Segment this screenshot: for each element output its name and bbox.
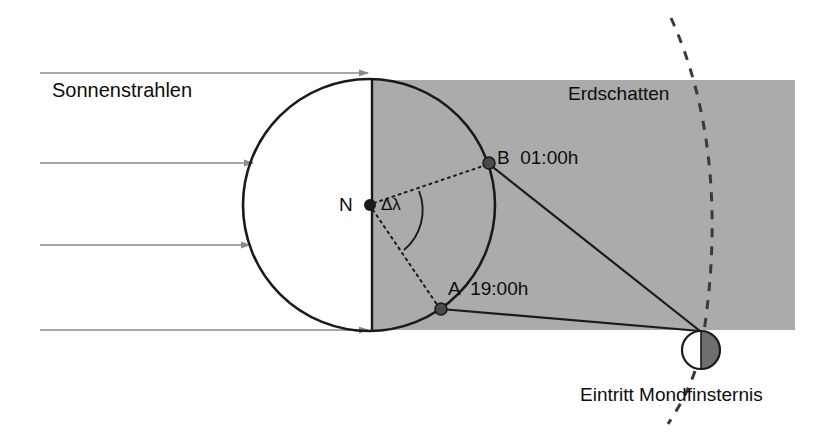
point-b-marker bbox=[483, 157, 495, 169]
point-n-marker bbox=[364, 199, 376, 211]
moon-eclipse-label: Eintritt Mondfinsternis bbox=[580, 385, 763, 404]
point-a-marker bbox=[435, 303, 447, 315]
earth-shadow-label: Erdschatten bbox=[568, 84, 669, 103]
moon-group bbox=[682, 331, 720, 369]
diagram-canvas bbox=[0, 0, 832, 441]
point-b-label: B 01:00h bbox=[497, 148, 578, 167]
earth-center-label: N bbox=[339, 195, 353, 214]
eclipse-diagram: Sonnenstrahlen Erdschatten N Δλ B 01:00h… bbox=[0, 0, 832, 441]
delta-lambda-label: Δλ bbox=[381, 196, 401, 213]
sun-rays-label: Sonnenstrahlen bbox=[52, 80, 192, 100]
point-a-label: A 19:00h bbox=[448, 279, 528, 298]
moon-dark-half bbox=[701, 331, 720, 369]
moon-lit-half bbox=[682, 331, 701, 369]
sun-ray-group bbox=[40, 73, 368, 330]
earth-shadow-region bbox=[372, 80, 795, 330]
